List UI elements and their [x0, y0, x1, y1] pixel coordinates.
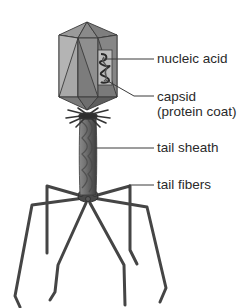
label-tail-fibers: tail fibers — [157, 177, 211, 192]
leader-tail-fibers — [129, 185, 154, 188]
label-nucleic-acid: nucleic acid — [157, 51, 228, 66]
tail-sheath — [79, 118, 97, 195]
label-capsid: capsid — [157, 89, 196, 104]
label-capsid-subtitle: (protein coat) — [157, 104, 237, 119]
tail-fibers — [15, 186, 166, 307]
label-tail-sheath: tail sheath — [157, 140, 219, 155]
nucleic-acid — [98, 50, 112, 85]
